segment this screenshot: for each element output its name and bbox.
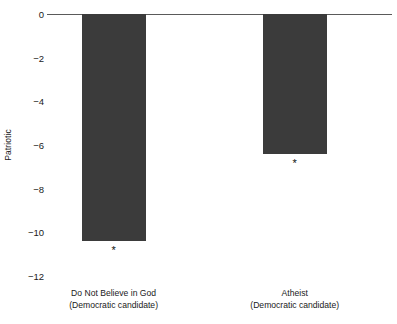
bar[interactable] — [263, 14, 327, 154]
x-axis-label-line: Do Not Believe in God — [29, 288, 199, 300]
y-axis-tick-labels: 0−2−4−6−8−10−12 — [0, 0, 44, 324]
y-tick-label: 0 — [0, 9, 44, 20]
bar[interactable] — [82, 14, 146, 241]
y-tick-label: −8 — [0, 183, 44, 194]
x-axis-label: Atheist(Democratic candidate) — [210, 288, 380, 311]
bar-chart: Patriotic 0−2−4−6−8−10−12 ** Do Not Beli… — [0, 0, 397, 324]
x-axis-category-labels: Do Not Believe in God(Democratic candida… — [47, 288, 392, 324]
x-axis-label-line: (Democratic candidate) — [210, 300, 380, 312]
y-tick-label: −6 — [0, 139, 44, 150]
x-axis-label-line: Atheist — [210, 288, 380, 300]
x-axis-label: Do Not Believe in God(Democratic candida… — [29, 288, 199, 311]
plot-area: ** — [47, 0, 392, 290]
y-tick-label: −4 — [0, 96, 44, 107]
y-tick-label: −2 — [0, 52, 44, 63]
significance-marker: * — [293, 158, 297, 169]
y-tick-label: −10 — [0, 227, 44, 238]
significance-marker: * — [111, 245, 115, 256]
y-tick-label: −12 — [0, 270, 44, 281]
x-axis-label-line: (Democratic candidate) — [29, 300, 199, 312]
